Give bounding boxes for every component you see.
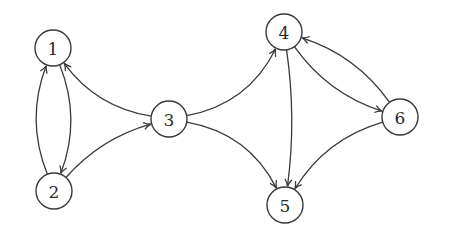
edge-3-to-1 (64, 63, 151, 116)
graph-diagram: 123456 (0, 0, 450, 232)
node-label: 2 (49, 182, 60, 202)
node-label: 3 (164, 110, 175, 130)
node-1: 1 (35, 30, 71, 66)
node-6: 6 (382, 99, 418, 135)
node-4: 4 (266, 14, 302, 50)
edge-layer (36, 37, 389, 189)
node-label: 6 (395, 108, 406, 128)
edge-4-to-5 (287, 50, 292, 186)
edge-3-to-4 (187, 49, 276, 116)
graph-svg: 123456 (0, 0, 450, 232)
node-label: 1 (48, 39, 59, 59)
arrowhead-icon (295, 181, 302, 189)
node-layer: 123456 (35, 14, 418, 223)
edge-2-to-3 (66, 124, 151, 177)
node-label: 4 (279, 23, 290, 43)
node-label: 5 (280, 196, 291, 216)
node-5: 5 (267, 187, 303, 223)
edge-6-to-5 (295, 122, 383, 189)
edge-3-to-5 (187, 122, 277, 188)
node-3: 3 (151, 101, 187, 137)
edge-4-to-6 (294, 47, 382, 112)
node-2: 2 (36, 173, 72, 209)
edge-6-to-4 (302, 38, 390, 103)
edge-1-to-2 (60, 65, 71, 174)
edge-2-to-1 (36, 66, 47, 175)
